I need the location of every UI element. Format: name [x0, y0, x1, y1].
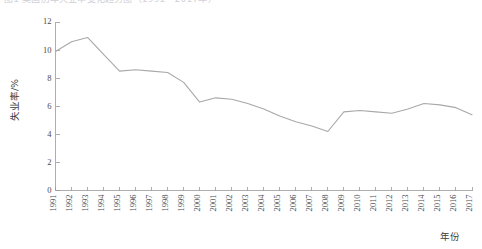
x-tick-label: 2007	[304, 195, 314, 212]
x-tick-label: 2002	[224, 195, 234, 212]
x-axis-title: 年份	[440, 231, 460, 242]
y-tick-label: 12	[43, 16, 52, 26]
y-tick-label: 10	[43, 45, 52, 55]
y-tick-label: 2	[47, 157, 51, 167]
x-tick-label: 1992	[64, 195, 74, 212]
x-axis-group: 1991199219931994199519961997199819992000…	[48, 187, 475, 243]
x-tick-label: 2000	[192, 195, 202, 212]
y-axis-ticks: 024681012	[43, 16, 60, 195]
x-tick-label: 2012	[384, 195, 394, 212]
y-tick-label: 8	[47, 73, 51, 83]
x-tick-label: 1991	[48, 195, 58, 212]
y-axis-group: 024681012 失业率/%	[9, 16, 60, 195]
x-tick-label: 2016	[448, 195, 458, 212]
x-tick-label: 1998	[160, 195, 170, 212]
y-tick-label: 4	[47, 129, 52, 139]
y-axis-title: 失业率/%	[9, 79, 20, 121]
chart-figure: 图1 美国历年失业率变化趋势图（1991—2017年） 024681012 失业…	[0, 0, 482, 249]
x-tick-label: 1995	[112, 195, 122, 212]
x-tick-label: 2013	[400, 195, 410, 212]
x-tick-label: 1993	[80, 195, 90, 212]
x-tick-label: 1997	[144, 195, 154, 212]
x-tick-label: 2006	[288, 195, 298, 212]
x-tick-label: 2014	[416, 194, 426, 212]
x-tick-label: 2005	[272, 195, 282, 212]
x-tick-label: 2011	[368, 195, 378, 212]
line-chart-canvas: 024681012 失业率/% 199119921993199419951996…	[0, 0, 482, 249]
x-tick-label: 2017	[464, 195, 474, 212]
x-tick-label: 2010	[352, 195, 362, 212]
y-tick-label: 6	[47, 101, 51, 111]
unemployment-rate-series	[56, 37, 473, 131]
x-tick-label: 2015	[432, 195, 442, 212]
x-tick-label: 1999	[176, 195, 186, 212]
x-tick-label: 2003	[240, 195, 250, 212]
x-tick-label: 2004	[256, 194, 266, 212]
x-tick-label: 2009	[336, 195, 346, 212]
x-tick-label: 1994	[96, 194, 106, 212]
x-tick-label: 2001	[208, 195, 218, 212]
y-tick-label: 0	[47, 185, 51, 195]
x-tick-label: 2008	[320, 195, 330, 212]
x-tick-label: 1996	[128, 195, 138, 212]
